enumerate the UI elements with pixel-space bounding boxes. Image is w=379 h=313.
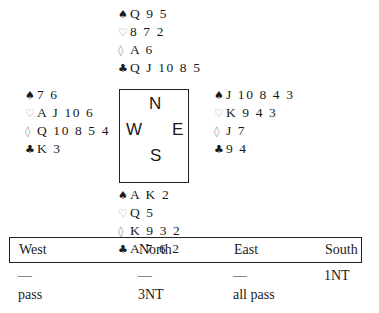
- heart-icon: ♡: [118, 205, 130, 223]
- spade-icon: ♠: [118, 187, 130, 205]
- west-diamonds: ◊Q 10 8 5 4: [25, 122, 110, 140]
- bid-cell: 3NT: [138, 287, 164, 303]
- diamond-icon: ◊: [25, 123, 37, 141]
- header-east: East: [234, 242, 258, 258]
- auction-table: West North East South — — — 1NT pass 3NT…: [9, 237, 362, 306]
- bid-cell: —: [138, 268, 152, 284]
- bid-cell: —: [18, 268, 32, 284]
- club-icon: ♣: [118, 60, 130, 78]
- bid-cell: all pass: [233, 287, 275, 303]
- west-hand: ♠7 6 ♡A J 10 6 ◊Q 10 8 5 4 ♣K 3: [25, 86, 110, 158]
- auction-header: West North East South: [9, 237, 362, 263]
- east-hearts: ♡K 9 4 3: [214, 104, 295, 122]
- auction-row: — — — 1NT: [9, 268, 362, 287]
- compass-box: N W E S: [119, 89, 189, 183]
- header-west: West: [19, 242, 47, 258]
- north-spades: ♠Q 9 5: [118, 5, 202, 23]
- compass-west: W: [126, 120, 142, 140]
- north-clubs: ♣Q J 10 8 5: [118, 59, 202, 77]
- auction-row: pass 3NT all pass: [9, 287, 362, 306]
- spade-icon: ♠: [118, 6, 130, 24]
- header-north: North: [139, 242, 172, 258]
- west-spades: ♠7 6: [25, 86, 110, 104]
- north-diamonds: ◊A 6: [118, 41, 202, 59]
- east-hand: ♠J 10 8 4 3 ♡K 9 4 3 ◊J 7 ♣9 4: [214, 86, 295, 158]
- diamond-icon: ◊: [214, 123, 226, 141]
- spade-icon: ♠: [25, 87, 37, 105]
- bid-cell: 1NT: [324, 268, 350, 284]
- compass-south: S: [150, 146, 161, 166]
- east-diamonds: ◊J 7: [214, 122, 295, 140]
- bid-cell: —: [233, 268, 247, 284]
- west-clubs: ♣K 3: [25, 140, 110, 158]
- club-icon: ♣: [25, 141, 37, 159]
- club-icon: ♣: [214, 141, 226, 159]
- north-hearts: ♡8 7 2: [118, 23, 202, 41]
- compass-north: N: [149, 94, 161, 114]
- spade-icon: ♠: [214, 87, 226, 105]
- heart-icon: ♡: [214, 105, 226, 123]
- west-hearts: ♡A J 10 6: [25, 104, 110, 122]
- north-hand: ♠Q 9 5 ♡8 7 2 ◊A 6 ♣Q J 10 8 5: [118, 5, 202, 77]
- south-spades: ♠A K 2: [118, 186, 181, 204]
- bid-cell: pass: [18, 287, 42, 303]
- east-clubs: ♣9 4: [214, 140, 295, 158]
- heart-icon: ♡: [118, 24, 130, 42]
- header-south: South: [325, 242, 358, 258]
- east-spades: ♠J 10 8 4 3: [214, 86, 295, 104]
- heart-icon: ♡: [25, 105, 37, 123]
- south-hearts: ♡Q 5: [118, 204, 181, 222]
- diamond-icon: ◊: [118, 42, 130, 60]
- compass-east: E: [172, 120, 183, 140]
